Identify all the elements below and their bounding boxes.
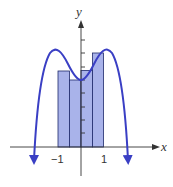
bar-4 xyxy=(93,53,104,147)
tick-label-neg1: −1 xyxy=(51,153,64,165)
x-axis-label: x xyxy=(160,139,167,154)
tick-label-pos1: 1 xyxy=(101,153,107,165)
bar-2 xyxy=(70,80,82,147)
y-axis-label: y xyxy=(74,4,82,19)
bar-1 xyxy=(58,71,70,147)
bar-3 xyxy=(81,71,93,148)
chart: y x −1 1 xyxy=(0,0,173,187)
